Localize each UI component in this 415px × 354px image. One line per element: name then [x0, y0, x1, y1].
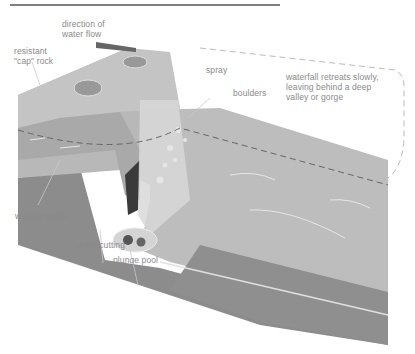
- waterfall-illustration: [0, 0, 415, 354]
- label-plunge-pool: plunge pool: [113, 255, 158, 265]
- label-retreat: waterfall retreats slowly, leaving behin…: [286, 72, 379, 102]
- label-weaker-rocks: weaker rocks: [15, 211, 66, 221]
- label-cap-rock: resistant "cap" rock: [14, 46, 53, 66]
- flow-arrow: [96, 42, 136, 52]
- label-boulders: boulders: [233, 88, 266, 98]
- label-spray: spray: [206, 65, 227, 75]
- label-direction-of-flow: direction of water flow: [62, 19, 105, 39]
- label-undercutting: undercutting: [77, 240, 125, 250]
